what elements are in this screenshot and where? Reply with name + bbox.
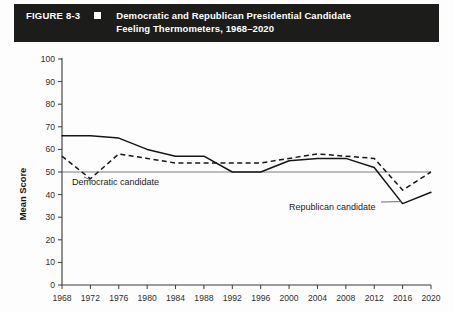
y-tick-label: 20 xyxy=(45,235,55,245)
y-tick-label: 0 xyxy=(50,280,55,290)
figure-container: FIGURE 8-3 Democratic and Republican Pre… xyxy=(0,0,453,313)
x-axis-tick-labels: 1968197219761980198419881992199620002004… xyxy=(52,293,440,303)
x-tick-label: 1976 xyxy=(109,293,128,303)
x-tick-label: 1996 xyxy=(251,293,270,303)
x-axis-tick-marks xyxy=(62,285,431,289)
y-tick-label: 10 xyxy=(45,257,55,267)
x-tick-label: 2000 xyxy=(280,293,299,303)
figure-number-label: FIGURE 8-3 xyxy=(26,9,80,22)
y-axis-title: Mean Score xyxy=(17,168,28,221)
x-tick-label: 2016 xyxy=(393,293,412,303)
y-tick-label: 30 xyxy=(45,212,55,222)
y-tick-label: 100 xyxy=(41,54,56,64)
x-tick-label: 1992 xyxy=(223,293,242,303)
series-line-republican-candidate xyxy=(62,136,431,204)
figure-title: Democratic and Republican Presidential C… xyxy=(116,9,351,35)
y-axis-tick-marks xyxy=(58,59,62,285)
line-chart-svg: 0102030405060708090100 19681972197619801… xyxy=(0,44,453,313)
x-tick-label: 2008 xyxy=(336,293,355,303)
y-axis-tick-labels: 0102030405060708090100 xyxy=(41,54,56,290)
y-tick-label: 50 xyxy=(45,167,55,177)
figure-title-line-1: Democratic and Republican Presidential C… xyxy=(116,9,351,22)
x-tick-label: 1988 xyxy=(194,293,213,303)
y-tick-label: 70 xyxy=(45,122,55,132)
y-tick-label: 80 xyxy=(45,99,55,109)
figure-title-line-2: Feeling Thermometers, 1968–2020 xyxy=(116,22,351,35)
chart-plot-area: 0102030405060708090100 19681972197619801… xyxy=(0,44,453,313)
y-tick-label: 90 xyxy=(45,77,55,87)
y-tick-label: 60 xyxy=(45,144,55,154)
annotation-republican-candidate: Republican candidate xyxy=(289,202,376,212)
figure-header-inner: FIGURE 8-3 Democratic and Republican Pre… xyxy=(26,9,433,35)
black-square-icon xyxy=(94,12,101,19)
x-tick-label: 1972 xyxy=(81,293,100,303)
figure-header-bar: FIGURE 8-3 Democratic and Republican Pre… xyxy=(14,4,439,42)
annotation-democratic-candidate: Democratic candidate xyxy=(72,177,159,187)
x-tick-label: 2004 xyxy=(308,293,327,303)
x-tick-label: 2020 xyxy=(421,293,440,303)
y-tick-label: 40 xyxy=(45,190,55,200)
x-tick-label: 1984 xyxy=(166,293,185,303)
x-tick-label: 1968 xyxy=(52,293,71,303)
x-tick-label: 2012 xyxy=(365,293,384,303)
x-tick-label: 1980 xyxy=(138,293,157,303)
